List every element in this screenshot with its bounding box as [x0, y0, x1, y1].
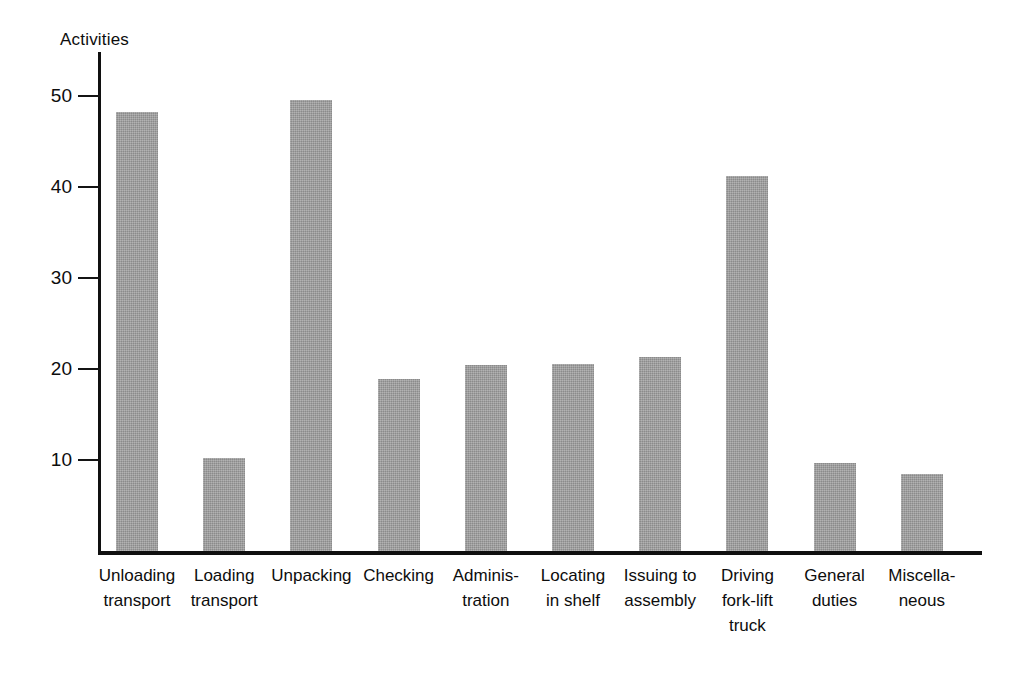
bar [552, 364, 594, 551]
bar [726, 176, 768, 551]
x-axis-category-label: Miscella- neous [870, 563, 974, 613]
bar [814, 463, 856, 551]
bar [465, 365, 507, 551]
bar [290, 100, 332, 551]
bar [203, 458, 245, 551]
bar [378, 379, 420, 551]
bar [901, 474, 943, 551]
bar [116, 112, 158, 551]
bar-chart: Activities 1020304050 Unloading transpor… [0, 0, 1017, 677]
bar [639, 357, 681, 551]
